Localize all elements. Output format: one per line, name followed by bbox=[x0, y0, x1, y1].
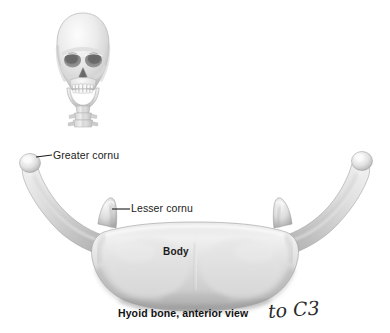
label-lesser-cornu: Lesser cornu bbox=[131, 202, 193, 214]
hyoid-bone-figure: Greater cornu Lesser cornu Body Hyoid bo… bbox=[0, 0, 390, 333]
leader-lines bbox=[0, 0, 390, 333]
label-greater-cornu: Greater cornu bbox=[53, 149, 119, 161]
handwritten-annotation-to-c3: to C3 bbox=[267, 296, 320, 322]
label-body: Body bbox=[163, 246, 189, 257]
leader-line-greater-cornu bbox=[36, 155, 52, 157]
figure-caption: Hyoid bone, anterior view bbox=[118, 307, 248, 319]
